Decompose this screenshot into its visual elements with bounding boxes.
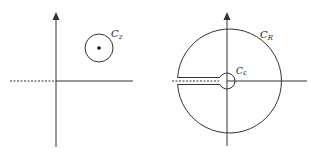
left-figure: Cz	[10, 12, 133, 147]
diagram-canvas: Cz CR Cε	[0, 0, 311, 157]
left-axis-arrow-icon	[53, 12, 60, 20]
label-ceps: Cε	[236, 66, 247, 77]
point-z	[97, 46, 101, 50]
label-cz: Cz	[111, 28, 123, 41]
right-figure: CR Cε	[172, 12, 307, 146]
right-axis-arrow-icon	[224, 12, 231, 20]
